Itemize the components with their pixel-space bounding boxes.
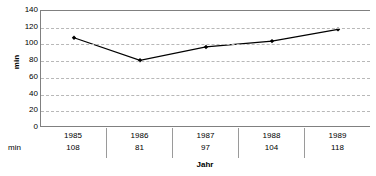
y-axis-tick-label: 140 (8, 6, 38, 14)
data-table-year-cell: 1985 (40, 131, 106, 141)
y-axis-tick-mark (40, 44, 41, 45)
data-table: min 198510819868119879719881041989118 (8, 128, 370, 158)
y-axis-tick-mark (40, 61, 41, 62)
data-table-year-cell: 1986 (107, 131, 172, 141)
data-table-year-cell: 1989 (305, 131, 370, 141)
data-table-column: 1985108 (40, 128, 106, 158)
data-table-row-label: min (8, 143, 38, 153)
y-axis-tick-mark (40, 111, 41, 112)
data-table-value-cell: 97 (173, 143, 238, 153)
gridline (41, 111, 370, 112)
data-table-column: 198681 (106, 128, 172, 158)
y-axis-tick-mark (40, 11, 41, 12)
gridline (41, 95, 370, 96)
data-table-value-cell: 118 (305, 143, 370, 153)
data-table-value-cell: 108 (40, 143, 106, 153)
y-axis-tick-label: 80 (8, 56, 38, 64)
x-axis-title: Jahr (40, 160, 370, 170)
data-table-column: 1988104 (238, 128, 304, 158)
gridline (41, 61, 370, 62)
y-axis-tick-label: 40 (8, 90, 38, 98)
y-axis-tick-label: 100 (8, 39, 38, 47)
data-table-value-cell: 81 (107, 143, 172, 153)
data-table-column: 198797 (172, 128, 238, 158)
y-axis-tick-mark (40, 78, 41, 79)
data-point-marker (270, 39, 274, 43)
gridline (41, 78, 370, 79)
data-point-marker (72, 36, 76, 40)
y-axis-tick-mark (40, 95, 41, 96)
data-table-year-cell: 1988 (239, 131, 304, 141)
plot-area (40, 10, 370, 127)
line-chart-figure: min 020406080100120140 min 1985108198681… (0, 0, 376, 176)
data-table-column: 1989118 (304, 128, 370, 158)
y-axis-tick-label: 20 (8, 106, 38, 114)
gridline (41, 28, 370, 29)
y-axis-tick-mark (40, 28, 41, 29)
data-table-value-cell: 104 (239, 143, 304, 153)
y-axis-tick-label: 120 (8, 23, 38, 31)
y-axis-tick-labels: 020406080100120140 (8, 0, 38, 140)
gridline (41, 44, 370, 45)
y-axis-tick-label: 60 (8, 73, 38, 81)
data-table-year-cell: 1987 (173, 131, 238, 141)
